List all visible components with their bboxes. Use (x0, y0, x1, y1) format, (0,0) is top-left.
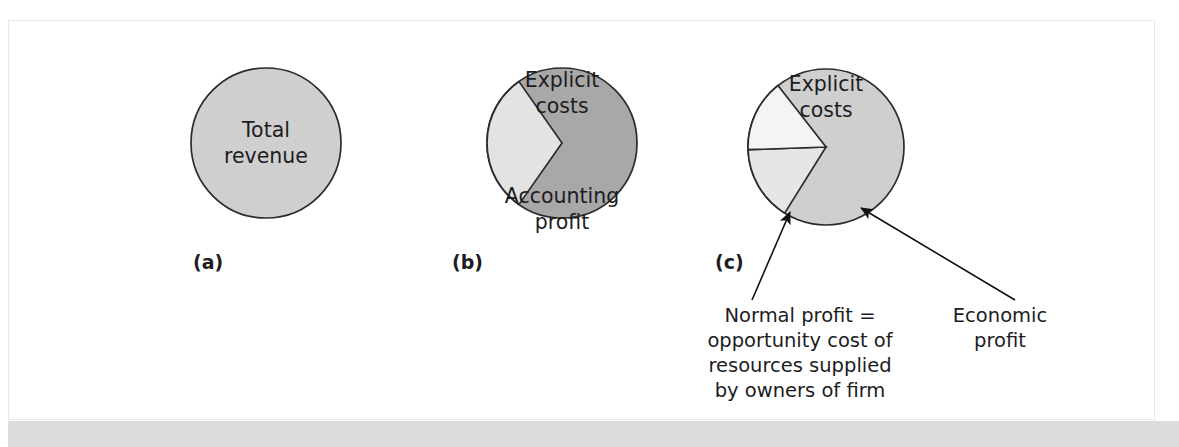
explicit-costs-label-b-line1: Explicit (525, 68, 600, 92)
normal-profit-caption-line1: Normal profit = (724, 304, 875, 327)
panel-a: Total revenue (a) (191, 68, 341, 273)
figure-canvas: Total revenue (a) Explicit costs Account… (0, 0, 1179, 447)
explicit-costs-label-b-line2: costs (535, 94, 588, 118)
normal-profit-caption-line3: resources supplied (708, 354, 891, 377)
total-revenue-label-line2: revenue (224, 144, 308, 168)
normal-profit-caption-line2: opportunity cost of (707, 329, 893, 352)
panel-c-caption-label: (c) (715, 251, 744, 273)
panel-c: Explicit costs (c) (715, 69, 904, 273)
economic-profit-caption-line2: profit (974, 329, 1026, 352)
economic-profit-leader-line (861, 208, 1015, 300)
callout-normal-profit: Normal profit = opportunity cost of reso… (707, 212, 893, 402)
total-revenue-label-line1: Total (241, 118, 290, 142)
normal-profit-leader-line (752, 212, 790, 300)
accounting-profit-label-line1: Accounting (505, 184, 619, 208)
total-revenue-circle (191, 68, 341, 218)
panel-b-caption-label: (b) (452, 251, 483, 273)
figure-root: Total revenue (a) Explicit costs Account… (0, 0, 1179, 447)
explicit-costs-label-c-line1: Explicit (789, 72, 864, 96)
economic-profit-caption-line1: Economic (953, 304, 1047, 327)
explicit-costs-label-c-line2: costs (799, 98, 852, 122)
panel-b: Explicit costs Accounting profit (b) (452, 68, 637, 273)
panel-a-caption-label: (a) (193, 251, 223, 273)
accounting-profit-label-line2: profit (535, 210, 589, 234)
normal-profit-caption-line4: by owners of firm (715, 379, 886, 402)
